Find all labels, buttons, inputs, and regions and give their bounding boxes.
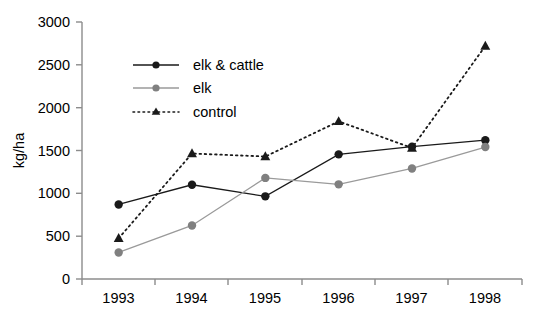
legend-item-control: control bbox=[133, 104, 237, 120]
x-tick-label: 1996 bbox=[322, 290, 354, 306]
legend-marker-circle-icon bbox=[152, 84, 159, 91]
legend: elk & cattle elk control bbox=[133, 57, 264, 120]
data-point-circle bbox=[481, 143, 489, 151]
data-point-triangle bbox=[334, 116, 344, 125]
x-tick-label: 1995 bbox=[249, 290, 281, 306]
data-point-circle bbox=[114, 200, 122, 208]
axis-group bbox=[76, 22, 522, 285]
data-point-circle bbox=[408, 164, 416, 172]
y-tick-label: 1500 bbox=[38, 143, 70, 159]
x-tick-label: 1998 bbox=[469, 290, 501, 306]
y-tick-label: 500 bbox=[46, 228, 70, 244]
y-tick-label: 2500 bbox=[38, 57, 70, 73]
series-line bbox=[119, 46, 486, 238]
series-line bbox=[119, 147, 486, 252]
series-line bbox=[119, 140, 486, 204]
y-tick-marks bbox=[76, 22, 82, 279]
data-point-circle bbox=[334, 180, 342, 188]
y-tick-label: 2000 bbox=[38, 100, 70, 116]
x-tick-label: 1993 bbox=[102, 290, 134, 306]
x-tick-marks bbox=[82, 279, 522, 285]
y-tick-label: 0 bbox=[62, 271, 70, 287]
series-elk bbox=[114, 143, 489, 257]
x-tick-label: 1997 bbox=[395, 290, 427, 306]
y-tick-labels: 3000 2500 2000 1500 1000 500 0 bbox=[38, 14, 70, 287]
data-point-circle bbox=[334, 150, 342, 158]
data-series-layer bbox=[114, 41, 491, 257]
line-chart: 3000 2500 2000 1500 1000 500 0 kg/ha 199… bbox=[0, 0, 533, 319]
legend-item-elk-and-cattle: elk & cattle bbox=[133, 57, 264, 73]
legend-item-elk: elk bbox=[133, 80, 212, 96]
x-tick-label: 1994 bbox=[175, 290, 207, 306]
series-control bbox=[114, 41, 491, 242]
y-tick-label: 3000 bbox=[38, 14, 70, 30]
legend-label: control bbox=[193, 104, 237, 120]
data-point-circle bbox=[188, 181, 196, 189]
legend-label: elk & cattle bbox=[193, 57, 264, 73]
x-tick-labels: 1993 1994 1995 1996 1997 1998 bbox=[102, 290, 501, 306]
data-point-circle bbox=[114, 248, 122, 256]
y-axis-title: kg/ha bbox=[11, 132, 27, 168]
data-point-circle bbox=[188, 221, 196, 229]
legend-label: elk bbox=[193, 80, 212, 96]
data-point-circle bbox=[261, 174, 269, 182]
series-elk-cattle bbox=[114, 136, 489, 209]
chart-canvas: 3000 2500 2000 1500 1000 500 0 kg/ha 199… bbox=[0, 0, 533, 319]
y-tick-label: 1000 bbox=[38, 185, 70, 201]
data-point-circle bbox=[261, 192, 269, 200]
data-point-triangle bbox=[480, 41, 490, 50]
legend-marker-circle-icon bbox=[152, 61, 159, 68]
